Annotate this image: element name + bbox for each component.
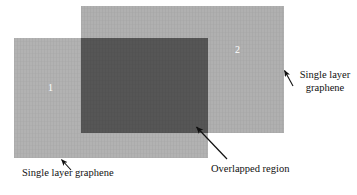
- sheet-2-number-label: 2: [235, 45, 240, 55]
- label-right-line-2: graphene: [306, 82, 344, 93]
- label-single-layer-graphene-left: Single layer graphene: [22, 167, 114, 180]
- overlapped-region: [81, 38, 208, 133]
- label-right-line-1: Single layer: [300, 69, 350, 80]
- label-overlapped-region: Overlapped region: [211, 163, 289, 176]
- label-single-layer-graphene-right: Single layer graphene: [296, 69, 354, 94]
- arrow-right-label: [285, 71, 294, 87]
- overlap-texture: [81, 38, 208, 133]
- diagram-canvas: 1 2 Single layer graphene Single layer g…: [0, 0, 357, 195]
- sheet-1-number-label: 1: [48, 83, 53, 93]
